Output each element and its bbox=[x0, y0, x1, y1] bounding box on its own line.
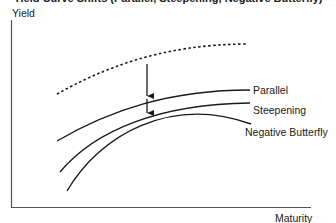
curve-negative-butterfly bbox=[67, 114, 251, 191]
label-parallel: Parallel bbox=[253, 85, 288, 96]
curve-original-dotted bbox=[57, 44, 248, 94]
label-steepening: Steepening bbox=[253, 105, 306, 116]
y-axis-label: Yield bbox=[12, 8, 35, 19]
x-axis-label: Maturity bbox=[275, 213, 312, 223]
label-negative-butterfly: Negative Butterfly bbox=[245, 127, 328, 138]
